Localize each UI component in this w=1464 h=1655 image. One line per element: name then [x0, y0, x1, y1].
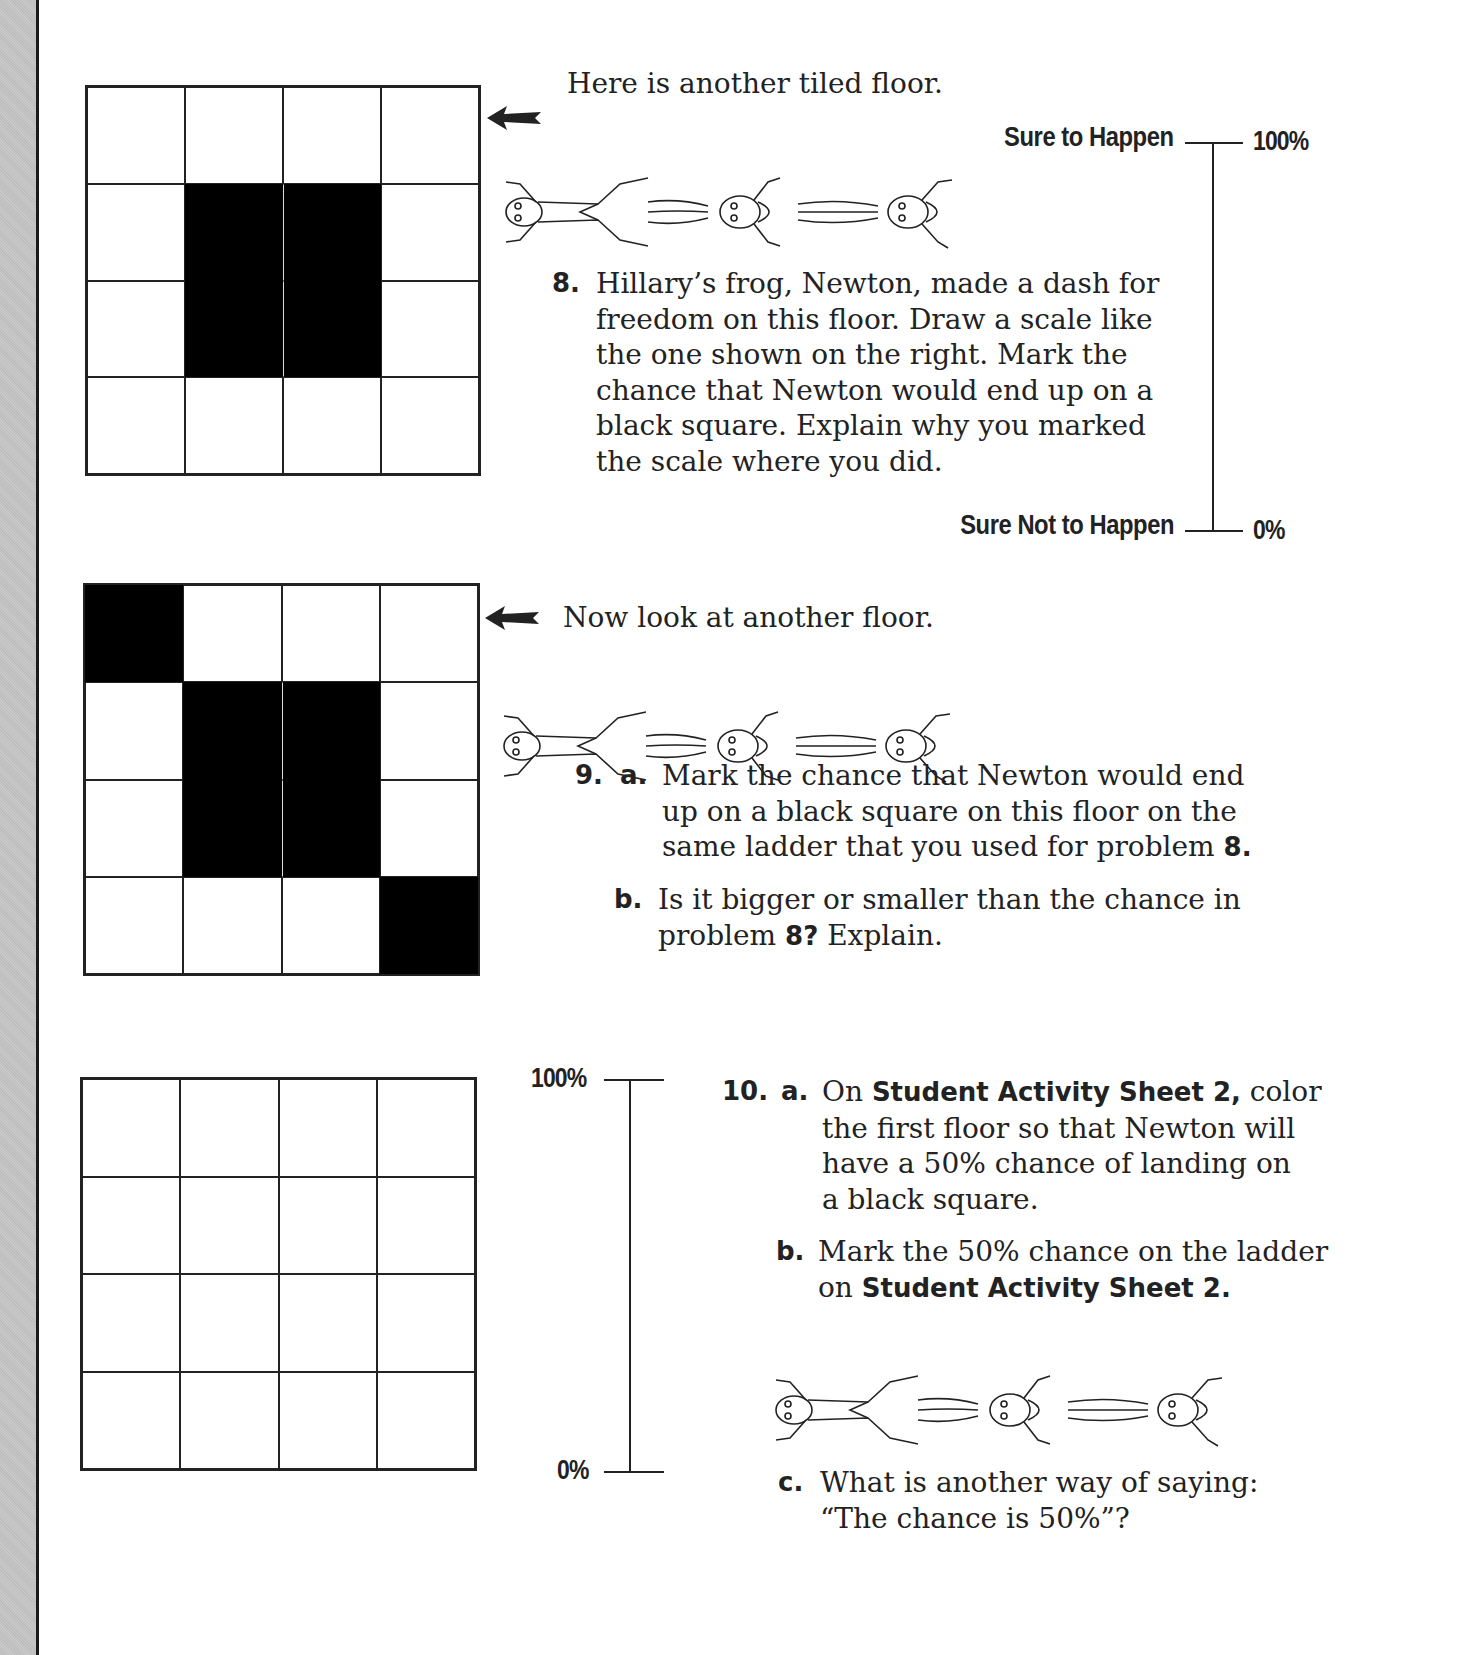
white-tile: [85, 682, 183, 779]
white-tile: [183, 877, 281, 974]
text-span: Explain.: [818, 919, 943, 952]
white-tile: [381, 87, 479, 184]
scale-1-vertical: [1212, 142, 1214, 532]
white-tile: [180, 1079, 278, 1177]
white-tile: [282, 585, 380, 682]
problem-8-number: 8.: [552, 268, 580, 298]
white-tile: [279, 1079, 377, 1177]
problem-10c-text: What is another way of saying: “The chan…: [820, 1465, 1258, 1536]
white-tile: [377, 1177, 475, 1275]
white-tile: [377, 1274, 475, 1372]
scale-2-vertical: [629, 1079, 631, 1472]
text-span: on: [818, 1271, 862, 1304]
problem-10a-line: On Student Activity Sheet 2, color: [822, 1074, 1322, 1111]
problem-10a-label: a.: [781, 1076, 808, 1106]
problem-9a-line: same ladder that you used for problem 8.: [662, 829, 1252, 866]
scale-2-bottom-tick: [604, 1471, 664, 1473]
white-tile: [87, 377, 185, 474]
problem-9a-line: Mark the chance that Newton would end: [662, 758, 1252, 794]
left-arrow-icon: [485, 604, 541, 632]
problem-10b-line: Mark the 50% chance on the ladder: [818, 1234, 1328, 1270]
white-tile: [282, 877, 380, 974]
problem-8-line: the scale where you did.: [596, 444, 1159, 480]
white-tile: [82, 1177, 180, 1275]
white-tile: [380, 585, 478, 682]
white-tile: [82, 1274, 180, 1372]
black-tile: [282, 682, 380, 779]
text-span: problem: [658, 919, 785, 952]
black-tile: [185, 281, 283, 378]
white-tile: [380, 682, 478, 779]
jumping-frog-illustration: [768, 1370, 1228, 1450]
problem-9b-text: Is it bigger or smaller than the chance …: [658, 882, 1241, 954]
white-tile: [87, 184, 185, 281]
scale-top-percent: 100%: [1253, 126, 1308, 157]
white-tile: [380, 780, 478, 877]
problem-8-line: chance that Newton would end up on a: [596, 373, 1159, 409]
white-tile: [87, 87, 185, 184]
black-tile: [185, 184, 283, 281]
problem-10a-line: the first floor so that Newton will: [822, 1111, 1322, 1147]
white-tile: [82, 1372, 180, 1470]
problem-10b-label: b.: [776, 1236, 805, 1266]
white-tile: [381, 377, 479, 474]
scale-2-top-tick: [604, 1079, 664, 1081]
jumping-frog-illustration: [498, 172, 958, 252]
black-tile: [183, 682, 281, 779]
scale-1-top-tick: [1185, 142, 1243, 144]
black-tile: [380, 877, 478, 974]
activity-sheet-ref: Student Activity Sheet 2.: [862, 1273, 1231, 1303]
black-tile: [85, 585, 183, 682]
white-tile: [85, 780, 183, 877]
left-arrow-icon: [487, 104, 543, 132]
white-tile: [87, 281, 185, 378]
white-tile: [279, 1177, 377, 1275]
white-tile: [381, 184, 479, 281]
white-tile: [82, 1079, 180, 1177]
problem-9b-line: problem 8? Explain.: [658, 918, 1241, 955]
problem-8-line: black square. Explain why you marked: [596, 408, 1159, 444]
scale-2-bottom-percent: 0%: [557, 1455, 588, 1486]
black-tile: [283, 184, 381, 281]
white-tile: [85, 877, 183, 974]
problem-8-line: the one shown on the right. Mark the: [596, 337, 1159, 373]
problem-ref: 8.: [1224, 832, 1252, 862]
problem-8-line: Hillary’s frog, Newton, made a dash for: [596, 266, 1159, 302]
problem-ref: 8?: [785, 921, 818, 951]
white-tile: [283, 87, 381, 184]
text-span: same ladder that you used for problem: [662, 830, 1224, 863]
white-tile: [279, 1372, 377, 1470]
problem-10c-line: What is another way of saying:: [820, 1465, 1258, 1501]
white-tile: [279, 1274, 377, 1372]
problem-10-number: 10.: [722, 1076, 768, 1106]
page-gutter: [0, 0, 36, 1655]
problem-9a-line: up on a black square on this floor on th…: [662, 794, 1252, 830]
white-tile: [185, 377, 283, 474]
white-tile: [180, 1372, 278, 1470]
problem-8-line: freedom on this floor. Draw a scale like: [596, 302, 1159, 338]
problem-10c-line: “The chance is 50%”?: [820, 1501, 1258, 1537]
scale-bottom-percent: 0%: [1253, 515, 1284, 546]
problem-10a-text: On Student Activity Sheet 2, color the f…: [822, 1074, 1322, 1217]
tiled-floor-2: [83, 583, 480, 976]
text-span: color: [1241, 1075, 1322, 1108]
problem-10c-label: c.: [778, 1467, 803, 1497]
white-tile: [180, 1177, 278, 1275]
text-span: On: [822, 1075, 872, 1108]
problem-10b-text: Mark the 50% chance on the ladder on Stu…: [818, 1234, 1328, 1306]
gutter-border: [36, 0, 39, 1655]
problem-9b-label: b.: [614, 884, 643, 914]
tiled-floor-3: [80, 1077, 477, 1471]
problem-8-text: Hillary’s frog, Newton, made a dash for …: [596, 266, 1159, 479]
tiled-floor-1: [85, 85, 481, 476]
problem-10a-line: a black square.: [822, 1182, 1322, 1218]
white-tile: [377, 1079, 475, 1177]
white-tile: [283, 377, 381, 474]
intro-text-1: Here is another tiled floor.: [567, 66, 943, 102]
problem-10b-line: on Student Activity Sheet 2.: [818, 1270, 1328, 1307]
black-tile: [183, 780, 281, 877]
problem-9b-line: Is it bigger or smaller than the chance …: [658, 882, 1241, 918]
white-tile: [180, 1274, 278, 1372]
scale-bottom-label: Sure Not to Happen: [960, 510, 1174, 541]
problem-10a-line: have a 50% chance of landing on: [822, 1146, 1322, 1182]
